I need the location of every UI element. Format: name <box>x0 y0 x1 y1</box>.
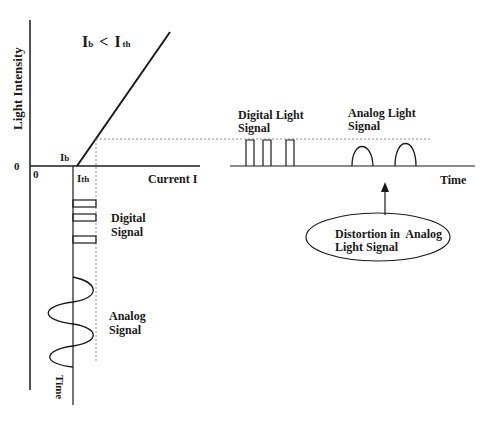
laser-modulation-diagram: Light Intensity Current I 0 0 Ib Ith Ib<… <box>0 0 495 427</box>
digital-pulse <box>73 236 96 243</box>
output-light-plot: Time Digital Light Signal Analog Light S… <box>230 106 475 187</box>
output-analog-humps <box>352 144 416 167</box>
digital-pulse <box>73 214 96 221</box>
callout-text-line2: Light Signal <box>335 240 399 254</box>
threshold-sub: th <box>81 174 89 184</box>
bias-sub: b <box>64 153 69 163</box>
output-analog-hump <box>352 147 373 167</box>
output-digital-label-2: Signal <box>238 121 271 135</box>
callout-text-line1: Distortion in Analog <box>335 227 442 241</box>
li-characteristic-plot: Light Intensity Current I 0 0 Ib Ith Ib<… <box>10 20 432 405</box>
input-analog-label-2: Signal <box>109 323 142 337</box>
output-analog-label: Analog Light <box>348 106 416 120</box>
threshold-current-label: Ith <box>77 172 89 184</box>
output-digital-pulse <box>246 140 254 166</box>
output-digital-pulse <box>263 140 271 166</box>
output-digital-pulses <box>246 140 294 166</box>
title-ith-main: I <box>114 33 120 50</box>
condition-title: Ib<Ith <box>82 33 131 50</box>
title-ith-sub: th <box>123 39 131 49</box>
origin-x-label: 0 <box>33 168 39 180</box>
output-time-label: Time <box>440 173 467 187</box>
digital-pulse <box>73 200 96 207</box>
output-analog-hump <box>395 144 416 167</box>
y-axis-label: Light Intensity <box>10 47 25 130</box>
input-digital-label-2: Signal <box>111 225 144 239</box>
title-operator: < <box>99 33 108 50</box>
input-digital-signal <box>73 200 96 243</box>
input-analog-label: Analog <box>109 309 146 323</box>
arrow-up-icon <box>381 182 389 192</box>
lasing-characteristic-line <box>77 32 170 166</box>
x-axis-label: Current I <box>148 172 198 186</box>
input-analog-sinewave <box>48 277 93 367</box>
vertical-time-label: Time <box>54 375 66 399</box>
origin-y-label: 0 <box>14 160 20 172</box>
output-digital-label: Digital Light <box>238 108 304 122</box>
bias-current-label: Ib <box>60 151 69 163</box>
output-digital-pulse <box>286 140 294 166</box>
title-ib-sub: b <box>88 39 93 49</box>
output-analog-label-2: Signal <box>348 119 381 133</box>
input-digital-label: Digital <box>111 211 146 225</box>
distortion-callout: Distortion in Analog Light Signal <box>306 182 450 261</box>
